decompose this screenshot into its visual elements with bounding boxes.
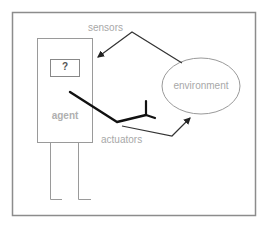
sensors-label: sensors	[88, 23, 123, 33]
sensors-arrow	[98, 32, 182, 63]
agent-left-leg	[51, 143, 63, 200]
gripper-prong-right	[146, 115, 155, 118]
agent-right-leg	[79, 143, 92, 200]
agent-box	[38, 39, 93, 143]
agent-program-label: ?	[50, 62, 80, 72]
environment-label: environment	[163, 81, 239, 91]
agent-label: agent	[38, 111, 92, 121]
actuators-label: actuators	[101, 135, 142, 145]
